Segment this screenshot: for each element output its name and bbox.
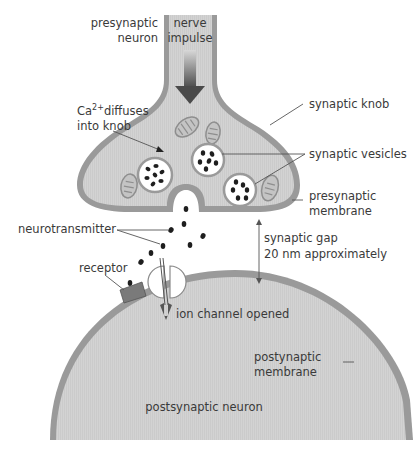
vesicle: [224, 174, 256, 206]
label-presynaptic-membrane-2: membrane: [309, 204, 372, 218]
label-postsynaptic-membrane-2: membrane: [254, 365, 317, 379]
label-neurotransmitter: neurotransmitter: [18, 222, 116, 236]
synapse-diagram: presynaptic neuron nerve impulse Ca2+dif…: [0, 0, 413, 455]
label-synaptic-knob: synaptic knob: [309, 97, 389, 111]
label-receptor: receptor: [79, 261, 128, 275]
label-postsynaptic-neuron: postsynaptic neuron: [145, 400, 262, 414]
label-presynaptic-neuron-1: presynaptic: [91, 16, 158, 30]
label-synaptic-gap-2: 20 nm approximately: [264, 247, 387, 261]
label-nerve-impulse-2: impulse: [167, 31, 212, 45]
label-ca-into-knob: into knob: [77, 119, 131, 133]
label-postsynaptic-membrane-1: postynaptic: [254, 350, 321, 364]
label-synaptic-vesicles: synaptic vesicles: [309, 147, 407, 161]
label-ion-channel: ion channel opened: [176, 307, 289, 321]
postsynaptic-neuron: [50, 270, 413, 440]
vesicle: [138, 158, 172, 192]
vesicle: [192, 144, 224, 176]
label-nerve-impulse-1: nerve: [174, 16, 207, 30]
label-presynaptic-neuron-2: neuron: [118, 31, 158, 45]
label-synaptic-gap-1: synaptic gap: [264, 231, 338, 245]
label-ca-diffuses: Ca2+diffuses: [77, 103, 149, 118]
label-presynaptic-membrane-1: presynaptic: [309, 189, 376, 203]
